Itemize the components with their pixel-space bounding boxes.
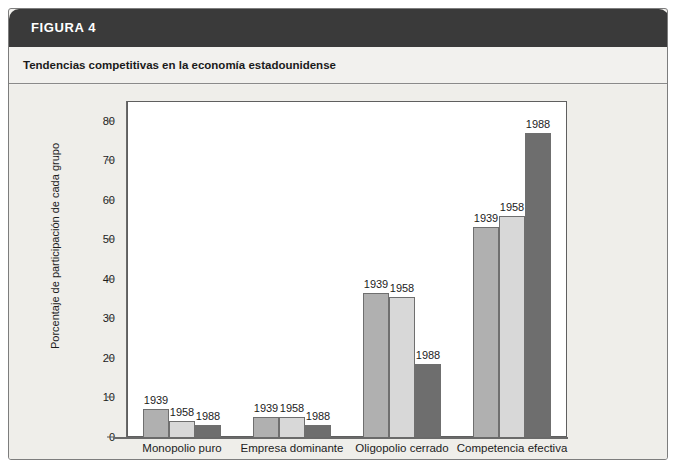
- bar-value-label: 1958: [280, 402, 304, 414]
- x-axis-baseline: [113, 437, 568, 439]
- figure-number-label: FIGURA 4: [31, 20, 96, 35]
- bar-1958-1: [169, 421, 195, 437]
- bar-1939-1: [143, 409, 169, 437]
- y-tick-mark: [107, 199, 114, 200]
- bar-value-label: 1988: [196, 410, 220, 422]
- category-label: Monopolio puro: [142, 442, 221, 454]
- bar-1988-3: [415, 364, 441, 437]
- bar-value-label: 1988: [306, 410, 330, 422]
- y-tick-mark: [107, 318, 114, 319]
- bar-value-label: 1939: [474, 212, 498, 224]
- y-axis-title: Porcentaje de participación de cada grup…: [49, 116, 61, 376]
- bar-1958-3: [389, 297, 415, 437]
- bar-1988-1: [195, 425, 221, 437]
- bar-1958-4: [499, 216, 525, 437]
- figure-header-band: FIGURA 4: [9, 9, 668, 47]
- y-tick-mark: [107, 357, 114, 358]
- bar-value-label: 1958: [500, 201, 524, 213]
- y-tick-mark: [107, 120, 114, 121]
- y-tick-mark: [107, 278, 114, 279]
- y-axis: 01020304050607080: [79, 85, 115, 460]
- bar-value-label: 1958: [170, 406, 194, 418]
- bar-value-label: 1939: [144, 394, 168, 406]
- category-label: Oligopolio cerrado: [355, 442, 448, 454]
- bar-value-label: 1939: [254, 402, 278, 414]
- figure-subtitle-strip: Tendencias competitivas en la economía e…: [9, 48, 668, 84]
- figure-caption: Tendencias competitivas en la economía e…: [23, 59, 336, 71]
- bar-1939-2: [253, 417, 279, 437]
- bar-1988-2: [305, 425, 331, 437]
- y-tick-mark: [107, 160, 114, 161]
- category-label: Competencia efectiva: [457, 442, 568, 454]
- bar-value-label: 1939: [364, 278, 388, 290]
- bar-1939-3: [363, 293, 389, 437]
- category-label: Empresa dominante: [241, 442, 344, 454]
- bar-value-label: 1988: [526, 118, 550, 130]
- bar-1988-4: [525, 133, 551, 437]
- y-tick-mark: [107, 239, 114, 240]
- bar-1939-4: [473, 227, 499, 437]
- bar-1958-2: [279, 417, 305, 437]
- bar-value-label: 1988: [416, 349, 440, 361]
- figure-card: FIGURA 4 Tendencias competitivas en la e…: [8, 8, 668, 460]
- y-tick-mark: [107, 397, 114, 398]
- bar-value-label: 1958: [390, 282, 414, 294]
- chart-region: Porcentaje de participación de cada grup…: [9, 85, 668, 460]
